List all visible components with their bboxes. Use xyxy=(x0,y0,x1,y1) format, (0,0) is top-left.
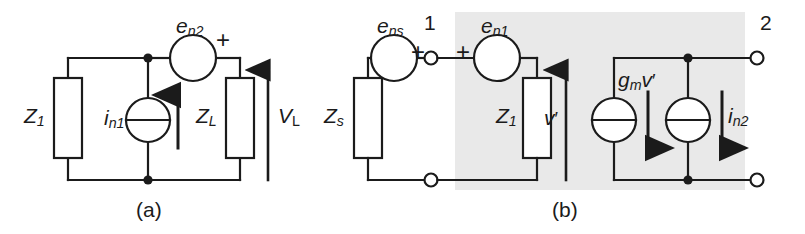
label-vprime-b: v′ xyxy=(544,106,558,130)
terminal-node-2-top[interactable] xyxy=(751,52,764,65)
label-vl-a: VL xyxy=(278,104,300,129)
voltage-source-en1-b xyxy=(474,35,520,81)
label-plus-en1-b: + xyxy=(456,40,470,64)
panel-a-circuit xyxy=(54,35,268,185)
terminal-node-1-bottom[interactable] xyxy=(425,174,438,187)
caption-panel-b: (b) xyxy=(552,198,578,222)
label-gm-v-b: gmv′ xyxy=(618,68,656,93)
figure-root: Z1 ZL in1 en2 + VL (a) Zs ens + 1 en1 + … xyxy=(0,0,805,234)
impedance-z1-a xyxy=(54,78,82,158)
junction-dot-a-top xyxy=(143,53,152,62)
impedance-zs-b xyxy=(354,78,382,158)
label-en2-a: en2 xyxy=(176,14,204,39)
label-z1-a: Z1 xyxy=(24,104,45,129)
label-plus-en2-a: + xyxy=(216,28,230,52)
junction-dot-b-top xyxy=(683,53,692,62)
label-ens-b: ens xyxy=(377,14,404,39)
label-in1-a: in1 xyxy=(104,106,125,131)
terminal-label-1: 1 xyxy=(424,11,436,35)
impedance-zl-a xyxy=(226,78,254,158)
label-en1-b: en1 xyxy=(481,14,509,39)
terminal-node-2-bottom[interactable] xyxy=(751,174,764,187)
voltage-source-en2-a xyxy=(170,35,216,81)
label-in2-b: in2 xyxy=(728,104,749,129)
label-zs-b: Zs xyxy=(324,104,344,129)
label-plus-ens-b: + xyxy=(411,40,425,64)
junction-dot-b-bottom xyxy=(683,175,692,184)
label-zl-a: ZL xyxy=(196,104,217,129)
terminal-label-2: 2 xyxy=(760,11,772,35)
label-z1-b: Z1 xyxy=(496,104,517,129)
caption-panel-a: (a) xyxy=(136,198,162,222)
junction-dot-a-bottom xyxy=(143,175,152,184)
terminal-node-1-top[interactable] xyxy=(425,52,438,65)
